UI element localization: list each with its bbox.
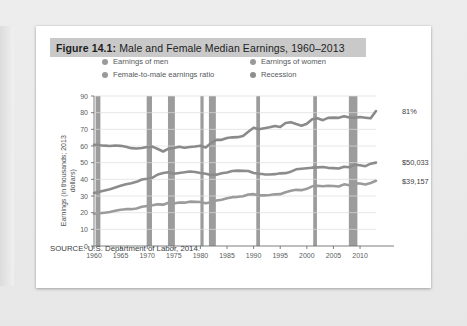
- series-line: [94, 163, 376, 193]
- x-axis-tick: 1965: [113, 252, 129, 259]
- y-axis-tick: 70: [80, 126, 88, 133]
- recession-band: [96, 96, 101, 246]
- y-axis-tick: 80: [80, 109, 88, 116]
- recession-band: [147, 96, 152, 246]
- legend-label: Earnings of men: [113, 57, 168, 66]
- recession-band: [209, 96, 216, 246]
- legend-item-female-to-male-earnings-ratio[interactable]: Female-to-male earnings ratio: [102, 70, 250, 79]
- legend-item-recession[interactable]: Recession: [250, 70, 390, 79]
- y-axis-tick: 40: [80, 176, 88, 183]
- legend-item-earnings-of-women[interactable]: Earnings of women: [250, 57, 390, 66]
- legend-label: Recession: [261, 70, 296, 79]
- series-end-label: $39,157: [402, 177, 429, 186]
- y-axis-tick: 10: [80, 226, 88, 233]
- x-axis-tick: 1990: [246, 252, 262, 259]
- x-axis-tick: 1960: [86, 252, 102, 259]
- page-title: Figure 14.1: Male and Female Median Earn…: [56, 42, 345, 54]
- figure-card: Figure 14.1: Male and Female Median Earn…: [36, 26, 431, 288]
- y-axis-tick: 20: [80, 209, 88, 216]
- recession-band: [200, 96, 203, 246]
- x-axis-tick: 2005: [326, 252, 342, 259]
- x-axis-tick: 1970: [139, 252, 155, 259]
- figure-number: Figure 14.1:: [56, 42, 116, 54]
- figure-title: Male and Female Median Earnings, 1960–20…: [119, 42, 344, 54]
- legend-dot-icon: [102, 72, 108, 78]
- x-axis-tick: 1980: [193, 252, 209, 259]
- legend-dot-icon: [250, 72, 256, 78]
- y-axis-tick: 50: [80, 159, 88, 166]
- y-axis-tick: 30: [80, 193, 88, 200]
- plot-area: Earnings (in thousands; 2013 dollars) 01…: [36, 88, 431, 288]
- legend-label: Female-to-male earnings ratio: [113, 70, 214, 79]
- legend-dot-icon: [250, 59, 256, 65]
- paper-edge: [0, 26, 14, 286]
- series-line: [94, 181, 376, 214]
- figure-source: SOURCE: U.S. Department of Labor, 2014.: [50, 244, 200, 253]
- x-axis-tick: 1985: [219, 252, 235, 259]
- legend-label: Earnings of women: [261, 57, 326, 66]
- x-axis-tick: 1995: [272, 252, 288, 259]
- x-axis-tick: 1975: [166, 252, 182, 259]
- y-axis-tick: 90: [80, 93, 88, 100]
- series-end-label: 81%: [402, 107, 417, 116]
- recession-band: [256, 96, 260, 246]
- legend-item-earnings-of-men[interactable]: Earnings of men: [102, 57, 250, 66]
- legend-dot-icon: [102, 59, 108, 65]
- x-axis-tick: 2010: [352, 252, 368, 259]
- chart-legend: Earnings of men Earnings of women Female…: [102, 55, 402, 81]
- series-end-label: $50,033: [402, 158, 429, 167]
- series-line: [94, 111, 376, 152]
- y-axis-tick: 60: [80, 143, 88, 150]
- x-axis-tick: 2000: [299, 252, 315, 259]
- line-chart: 0102030405060708090196019651970197519801…: [36, 88, 431, 288]
